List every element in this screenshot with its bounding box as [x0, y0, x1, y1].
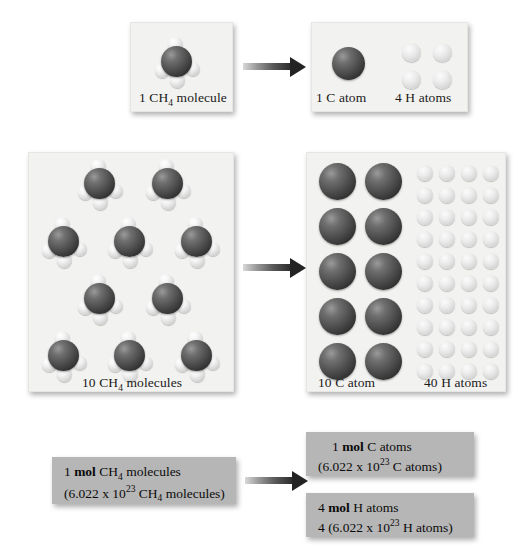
hydrogen-sphere [483, 275, 499, 291]
row1-arrow-icon [243, 57, 306, 77]
hydrogen-sphere [433, 70, 452, 89]
mole-hydrogen-line1: 4 mol H atoms [318, 499, 464, 517]
hydrogen-sphere [461, 253, 477, 269]
hydrogen-sphere [417, 209, 433, 225]
row1-left-caption: 1 CH4 molecule [139, 90, 227, 108]
hydrogen-sphere [402, 70, 421, 89]
carbon-sphere [152, 283, 183, 314]
ch4-molecule [108, 217, 164, 269]
hydrogen-sphere [417, 275, 433, 291]
hydrogen-sphere [461, 319, 477, 335]
ch4-molecule [42, 217, 98, 269]
hydrogen-sphere [417, 165, 433, 181]
row2-carbon-caption: 10 C atom [318, 375, 375, 391]
hydrogen-sphere [483, 231, 499, 247]
hydrogen-sphere [417, 319, 433, 335]
hydrogen-sphere [483, 319, 499, 335]
hydrogen-sphere [483, 209, 499, 225]
ch4-molecule [175, 331, 231, 383]
ch4-molecule [155, 37, 211, 89]
hydrogen-sphere [461, 341, 477, 357]
hydrogen-sphere [461, 275, 477, 291]
row2-arrow-icon [243, 258, 306, 278]
carbon-sphere [152, 168, 183, 199]
ch4-molecule [146, 159, 202, 211]
hydrogen-sphere [439, 253, 455, 269]
hydrogen-sphere [439, 209, 455, 225]
mole-ch4-line1: 1 mol CH4 molecules [64, 463, 226, 483]
row2-left-caption: 10 CH4 molecules [82, 375, 182, 393]
carbon-sphere [84, 168, 115, 199]
carbon-sphere [114, 226, 145, 257]
carbon-sphere [161, 46, 192, 77]
row1-hydrogen-caption: 4 H atoms [395, 90, 451, 106]
hydrogen-sphere [439, 319, 455, 335]
carbon-sphere [319, 163, 356, 200]
carbon-sphere [365, 208, 402, 245]
carbon-sphere [365, 163, 402, 200]
hydrogen-sphere [439, 341, 455, 357]
hydrogen-sphere [417, 341, 433, 357]
figure-canvas: 1 CH4 molecule 1 C atom 4 H atoms [0, 0, 523, 558]
carbon-sphere [332, 47, 365, 80]
mole-ch4-line2: (6.022 x 1023 CH4 molecules) [64, 483, 226, 505]
hydrogen-sphere [439, 187, 455, 203]
hydrogen-sphere [439, 297, 455, 313]
row2-left-panel [28, 152, 234, 392]
carbon-sphere [365, 253, 402, 290]
carbon-sphere [48, 340, 79, 371]
carbon-sphere [319, 298, 356, 335]
mole-carbon-line1: 1 mol C atoms [318, 438, 464, 456]
hydrogen-sphere [483, 187, 499, 203]
hydrogen-sphere [483, 341, 499, 357]
hydrogen-sphere [461, 165, 477, 181]
mole-hydrogen-line2: 4 (6.022 x 1023 H atoms) [318, 517, 464, 536]
hydrogen-sphere [417, 187, 433, 203]
hydrogen-sphere [483, 165, 499, 181]
mole-carbon-box: 1 mol C atoms (6.022 x 1023 C atoms) [306, 432, 474, 476]
hydrogen-sphere [402, 43, 421, 62]
hydrogen-sphere [461, 297, 477, 313]
carbon-sphere [319, 208, 356, 245]
hydrogen-sphere [417, 253, 433, 269]
row2-molecule-area [29, 153, 233, 391]
hydrogen-sphere [417, 231, 433, 247]
carbon-sphere [84, 283, 115, 314]
row3-arrow-icon [245, 471, 308, 491]
hydrogen-sphere [439, 231, 455, 247]
hydrogen-sphere [483, 297, 499, 313]
ch4-molecule [78, 274, 134, 326]
carbon-sphere [48, 226, 79, 257]
carbon-sphere [181, 226, 212, 257]
hydrogen-sphere [483, 253, 499, 269]
hydrogen-sphere [439, 275, 455, 291]
hydrogen-sphere [461, 209, 477, 225]
hydrogen-sphere [417, 297, 433, 313]
hydrogen-sphere [433, 43, 452, 62]
hydrogen-sphere [461, 187, 477, 203]
mole-hydrogen-box: 4 mol H atoms 4 (6.022 x 1023 H atoms) [306, 493, 474, 537]
row2-atoms-area [307, 153, 505, 391]
carbon-sphere [319, 253, 356, 290]
carbon-sphere [181, 340, 212, 371]
hydrogen-sphere [439, 165, 455, 181]
row1-carbon-caption: 1 C atom [316, 90, 366, 106]
hydrogen-sphere [461, 231, 477, 247]
carbon-sphere [114, 340, 145, 371]
carbon-sphere [365, 298, 402, 335]
mole-ch4-box: 1 mol CH4 molecules (6.022 x 1023 CH4 mo… [52, 457, 236, 504]
ch4-molecule [146, 274, 202, 326]
ch4-molecule [175, 217, 231, 269]
ch4-molecule [78, 159, 134, 211]
row2-right-panel [306, 152, 506, 392]
row2-hydrogen-caption: 40 H atoms [424, 375, 487, 391]
mole-carbon-line2: (6.022 x 1023 C atoms) [318, 456, 464, 475]
